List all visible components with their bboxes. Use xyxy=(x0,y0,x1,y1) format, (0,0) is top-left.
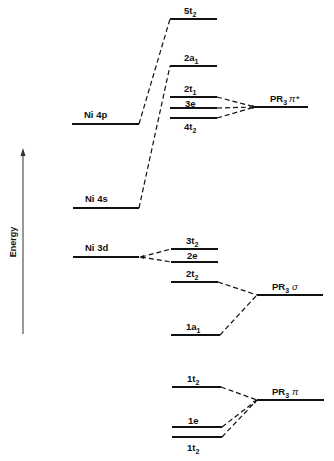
pr3-pi-label: PR3π xyxy=(272,386,299,399)
converge-arrow-icon xyxy=(252,105,257,109)
link-pi-1t2-upper xyxy=(221,387,257,400)
mo-diagram: Energy Ni 4p Ni 4s Ni 3d 5t2 2a1 2t1 3e … xyxy=(0,0,334,461)
mo-1t2-upper-label: 1t2 xyxy=(187,373,199,386)
link-3d-2e xyxy=(141,257,171,262)
link-pi-1t2-lower xyxy=(222,400,257,437)
mo-2t1-label: 2t1 xyxy=(184,83,196,96)
link-sigma-2t2 xyxy=(218,282,257,295)
pr3-pi-star-label: PR3π* xyxy=(270,93,299,106)
correlation-lines xyxy=(139,19,257,437)
mo-level-lines xyxy=(170,19,222,437)
link-pistar-4t2 xyxy=(217,107,255,118)
ni4p-label: Ni 4p xyxy=(84,109,107,120)
energy-axis: Energy xyxy=(8,148,26,334)
mo-5t2-label: 5t2 xyxy=(184,5,196,18)
converge-arrow-icon xyxy=(139,255,144,259)
link-3d-3t2 xyxy=(141,249,171,257)
ni3d-label: Ni 3d xyxy=(85,242,108,253)
link-pistar-3e xyxy=(217,107,255,108)
link-sigma-1a1 xyxy=(220,295,257,335)
mo-3t2-label: 3t2 xyxy=(186,235,198,248)
energy-label: Energy xyxy=(8,227,18,258)
mo-1e-label: 1e xyxy=(188,415,199,426)
arrow-up-icon xyxy=(21,148,26,156)
mo-2e-label: 2e xyxy=(187,250,198,261)
mo-1t2-lower-label: 1t2 xyxy=(187,442,199,455)
link-pistar-2t1 xyxy=(217,97,255,107)
mo-2a1-label: 2a1 xyxy=(184,52,199,65)
ni4s-label: Ni 4s xyxy=(85,193,108,204)
ligand-level-lines xyxy=(255,107,324,400)
mo-3e-label: 3e xyxy=(185,98,196,109)
link-4p-5t2 xyxy=(139,19,170,124)
pr3-sigma-label: PR3σ xyxy=(272,281,299,294)
mo-4t2-label: 4t2 xyxy=(184,121,196,134)
ni-level-lines xyxy=(72,124,139,257)
link-4s-2a1 xyxy=(139,66,170,208)
link-pi-1e xyxy=(222,400,257,427)
mo-2t2-label: 2t2 xyxy=(186,268,198,281)
mo-1a1-label: 1a1 xyxy=(186,321,201,334)
